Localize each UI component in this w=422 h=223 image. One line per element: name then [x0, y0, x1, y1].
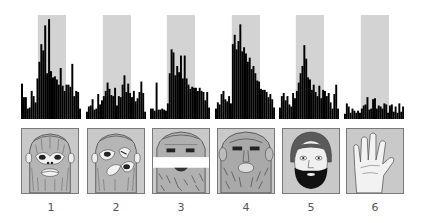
histogram-bar — [95, 109, 97, 119]
masked-monkey-face-icon — [153, 129, 209, 193]
histogram-bar — [27, 109, 29, 119]
panel-label-2: 2 — [86, 201, 146, 214]
histogram-bar — [273, 108, 275, 119]
histogram-bar — [112, 96, 114, 119]
histogram-bar — [31, 91, 33, 119]
panel-label-5: 5 — [281, 201, 341, 214]
histogram-bar — [139, 92, 141, 119]
histogram-bar — [29, 108, 31, 119]
histogram-bar — [46, 73, 48, 119]
histogram-bar — [54, 76, 56, 119]
histogram-bar — [135, 101, 137, 119]
histogram-bar — [232, 44, 234, 119]
histogram-bar — [283, 93, 285, 119]
histogram-5 — [279, 15, 339, 119]
histogram-bar — [221, 94, 223, 119]
histogram-bar — [315, 92, 317, 119]
histogram-bar — [247, 62, 249, 119]
histogram-bar — [120, 97, 122, 119]
histogram-bar — [62, 86, 64, 119]
histogram-bar — [370, 109, 372, 119]
histogram-bar — [184, 56, 186, 119]
histogram-bar — [40, 44, 42, 119]
histogram-bar — [281, 96, 283, 119]
histogram-bar — [92, 99, 94, 119]
histogram-bar — [142, 93, 144, 119]
histogram-bar — [56, 79, 58, 119]
histogram-bar — [182, 78, 184, 119]
hand-icon — [347, 129, 403, 193]
histogram-bar — [402, 107, 404, 119]
histogram-bar — [105, 91, 107, 119]
histogram-bar — [262, 90, 264, 119]
histogram-bar — [73, 96, 75, 119]
histogram-bar — [174, 75, 176, 119]
histogram-bar — [344, 114, 346, 119]
histogram-bar — [350, 113, 352, 119]
histogram-bar — [137, 98, 139, 119]
histogram-bar — [355, 113, 357, 119]
histogram-bar — [122, 85, 124, 119]
histogram-bar — [144, 112, 146, 119]
histogram-bar — [249, 58, 251, 119]
histogram-bar — [253, 66, 255, 119]
histogram-bar — [251, 69, 253, 119]
histogram-bar — [48, 19, 50, 119]
histogram-bar — [189, 89, 191, 119]
histogram-bar — [385, 104, 387, 119]
histogram-bar — [101, 100, 103, 119]
panel-label-6: 6 — [345, 201, 405, 214]
histogram-bar — [348, 107, 350, 119]
human-face-icon — [283, 129, 339, 193]
panel-label-3: 3 — [151, 201, 211, 214]
histogram-bar — [114, 88, 116, 119]
histogram-bar — [125, 92, 127, 119]
histogram-bar — [266, 92, 268, 119]
histogram-bar — [38, 62, 40, 119]
histogram-bar — [387, 113, 389, 119]
histogram-bar — [322, 90, 324, 119]
psth-panel-5 — [279, 15, 339, 119]
histogram-bar — [180, 56, 182, 119]
rhesus-monkey-face-icon — [218, 129, 274, 193]
histogram-bar — [35, 102, 37, 119]
histogram-bar — [305, 59, 307, 119]
histogram-bar — [21, 84, 23, 119]
histogram-bar — [260, 89, 262, 119]
histogram-bar — [203, 92, 205, 119]
histogram-bar — [223, 91, 225, 119]
histogram-bar — [44, 25, 46, 119]
histogram-bar — [398, 103, 400, 119]
histogram-bar — [245, 53, 247, 119]
histogram-bar — [152, 109, 154, 119]
histogram-bar — [50, 71, 52, 119]
histogram-bar — [318, 86, 320, 119]
histogram-bar — [159, 110, 161, 119]
histogram-4 — [215, 15, 275, 119]
histogram-bar — [243, 47, 245, 119]
histogram-bar — [389, 105, 391, 119]
histogram-bar — [337, 109, 339, 119]
histogram-bar — [241, 51, 243, 119]
histogram-bar — [36, 78, 38, 119]
histogram-bar — [42, 50, 44, 119]
histogram-bar — [353, 111, 355, 119]
histogram-bar — [317, 96, 319, 119]
histogram-bar — [71, 64, 73, 119]
histogram-bar — [77, 92, 79, 119]
histogram-bar — [79, 109, 81, 119]
histogram-bar — [154, 111, 156, 119]
histogram-bar — [298, 83, 300, 119]
histogram-bar — [186, 78, 188, 119]
stimulus-monkey-face — [21, 128, 79, 194]
histogram-bar — [264, 90, 266, 119]
histogram-bar — [320, 98, 322, 119]
histogram-bar — [258, 82, 260, 119]
histogram-bar — [330, 102, 332, 119]
histogram-bar — [193, 88, 195, 119]
histogram-bar — [236, 49, 238, 119]
histogram-bar — [228, 96, 230, 119]
histogram-2 — [86, 15, 146, 119]
psth-panel-6 — [344, 15, 404, 119]
histogram-bar — [226, 101, 228, 119]
